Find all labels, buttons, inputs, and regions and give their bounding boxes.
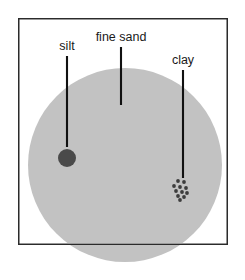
clay-particle-dot [182, 195, 186, 199]
clay-particle-dot [182, 180, 186, 184]
clay-particle-dot [185, 191, 189, 195]
clay-particle-dot [180, 190, 184, 194]
clay-particle-dot [178, 185, 182, 189]
clay-particle-dot [174, 189, 178, 193]
fine-sand-grain-shape [28, 68, 222, 262]
clay-particle-dot [172, 184, 176, 188]
silt-particle-shape [58, 149, 76, 167]
clay-particle-dot [178, 198, 182, 202]
clay-particle-dot [184, 186, 188, 190]
label-clay: clay [172, 53, 195, 67]
clay-particle-dot [176, 194, 180, 198]
label-silt: silt [59, 39, 75, 53]
label-fine-sand: fine sand [96, 30, 147, 44]
soil-particle-diagram: silt fine sand clay [0, 0, 245, 280]
clay-particle-dot [176, 179, 180, 183]
